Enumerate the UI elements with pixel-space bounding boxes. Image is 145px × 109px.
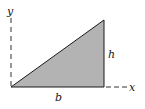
x-axis-label: x: [129, 81, 136, 94]
right-triangle: [11, 20, 104, 87]
height-label: h: [108, 48, 115, 61]
y-axis-label: y: [6, 5, 14, 18]
triangle-diagram: y x h b: [0, 0, 145, 109]
base-label: b: [55, 91, 62, 104]
